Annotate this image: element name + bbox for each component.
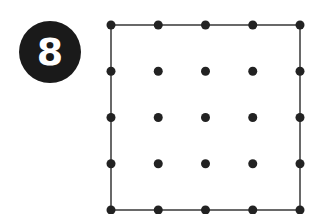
grid-dot xyxy=(201,21,210,30)
grid-dot xyxy=(248,113,257,122)
grid-dot xyxy=(201,67,210,76)
grid-dot xyxy=(107,67,116,76)
grid-dot xyxy=(107,206,116,215)
grid-dot xyxy=(201,113,210,122)
grid-dot xyxy=(248,159,257,168)
grid-dot xyxy=(248,206,257,215)
grid-dot xyxy=(296,113,305,122)
grid-dot xyxy=(154,113,163,122)
grid-dot xyxy=(107,159,116,168)
dot-grid-diagram xyxy=(0,0,331,214)
grid-dot xyxy=(248,21,257,30)
grid-dot xyxy=(107,21,116,30)
grid-dot xyxy=(154,159,163,168)
grid-dot xyxy=(296,159,305,168)
grid-dot xyxy=(154,206,163,215)
grid-dot xyxy=(248,67,257,76)
grid-dot xyxy=(296,21,305,30)
grid-dot xyxy=(154,67,163,76)
grid-dot xyxy=(296,67,305,76)
dot-grid xyxy=(107,21,305,215)
grid-dot xyxy=(201,206,210,215)
grid-dot xyxy=(154,21,163,30)
grid-dot xyxy=(107,113,116,122)
grid-dot xyxy=(201,159,210,168)
grid-dot xyxy=(296,206,305,215)
